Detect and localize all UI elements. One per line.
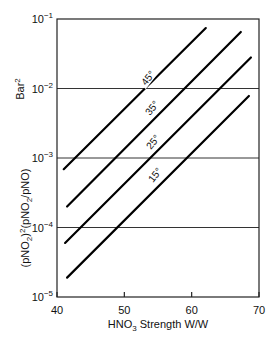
gridlines: [57, 89, 259, 228]
series-line-15deg: [67, 96, 249, 278]
y-tick-label: 10−2: [32, 81, 54, 95]
x-axis-title: HNO3 Strength W/W: [108, 318, 209, 333]
y-tick-label: 10−1: [32, 11, 54, 25]
chart: 40506070 10−510−410−310−210−1 45°35°25°1…: [0, 0, 278, 346]
y-tick-label: 10−3: [32, 150, 54, 164]
y-axis-title: (pNO2)2(pNO2/pNO): [18, 169, 34, 268]
series-line-45deg: [64, 28, 206, 169]
series-lines: [64, 28, 251, 278]
series-line-25deg: [65, 57, 251, 242]
y-tick-label: 10−5: [32, 289, 54, 303]
y-axis-ticks: 10−510−410−310−210−1: [32, 11, 54, 303]
x-axis-ticks: 40506070: [51, 292, 265, 316]
y-axis-unit: Bar2: [13, 78, 26, 100]
y-tick-label: 10−4: [32, 220, 54, 234]
x-tick-label: 70: [253, 304, 265, 316]
x-tick-label: 60: [186, 304, 198, 316]
x-tick-label: 50: [118, 304, 130, 316]
x-tick-label: 40: [51, 304, 63, 316]
